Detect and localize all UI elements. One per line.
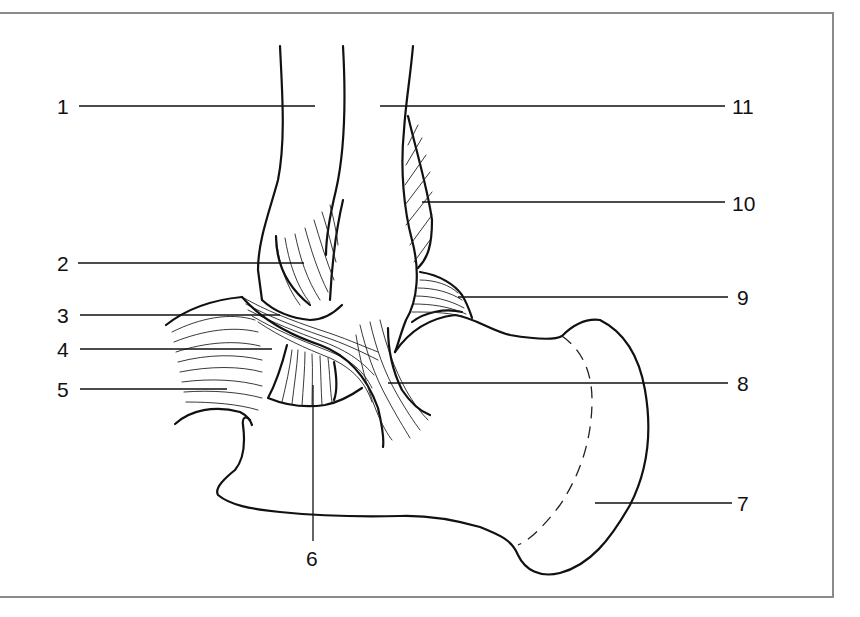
label-2: 2 bbox=[57, 252, 69, 275]
ligament-6-fibers bbox=[268, 345, 362, 406]
ligament-4-5-fibers bbox=[172, 316, 262, 410]
label-3: 3 bbox=[57, 304, 69, 327]
anatomy-diagram: 1 2 3 4 5 6 7 8 9 10 11 bbox=[0, 0, 860, 617]
label-9: 9 bbox=[737, 286, 749, 309]
label-1: 1 bbox=[57, 95, 69, 118]
lateral-malleolus bbox=[262, 300, 342, 320]
label-10: 10 bbox=[732, 192, 755, 215]
callout-labels: 1 2 3 4 5 6 7 8 9 10 11 bbox=[57, 95, 755, 570]
label-8: 8 bbox=[737, 372, 749, 395]
cuboid-edge bbox=[175, 409, 252, 425]
calcaneus bbox=[217, 315, 648, 574]
fibula bbox=[258, 46, 345, 300]
label-11: 11 bbox=[732, 95, 754, 118]
label-7: 7 bbox=[737, 492, 749, 515]
ligament-10-fibers bbox=[405, 116, 432, 268]
label-5: 5 bbox=[57, 378, 69, 401]
tibia bbox=[330, 46, 417, 352]
label-6: 6 bbox=[306, 547, 318, 570]
bone-edge-upper-left bbox=[166, 297, 242, 325]
figure-frame bbox=[0, 13, 833, 597]
label-4: 4 bbox=[57, 338, 69, 361]
